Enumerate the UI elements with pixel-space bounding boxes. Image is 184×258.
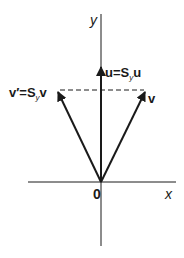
vector-v-prime-label: v′=Syv: [9, 86, 47, 99]
v-prime-label-end: v: [40, 85, 47, 100]
v-prime-label-main: v′=S: [9, 85, 36, 100]
origin-label: 0: [93, 187, 101, 201]
vector-v: [101, 92, 145, 182]
u-label-main: u=S: [105, 65, 129, 80]
reflection-diagram: [0, 0, 184, 258]
y-axis-label: y: [90, 13, 97, 27]
vector-v-label: v: [148, 92, 155, 105]
x-axis-label: x: [165, 187, 172, 201]
v-prime-label-sub: y: [36, 93, 40, 102]
u-label-sub: y: [129, 73, 133, 82]
vector-u-label: u=Syu: [105, 66, 141, 79]
u-label-end: u: [133, 65, 141, 80]
vector-v-prime: [58, 92, 101, 182]
